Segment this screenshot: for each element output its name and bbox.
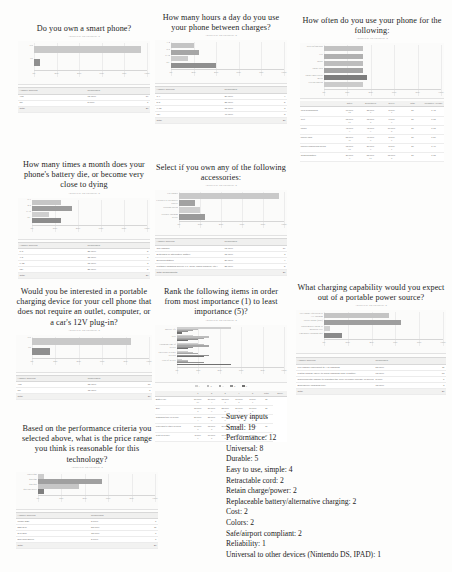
- legend-label: 2: [210, 385, 211, 388]
- bar-segment: [177, 356, 284, 357]
- survey-input-item: Retain charge/power: 2: [226, 486, 448, 497]
- panel-q6: Would you be interested in a portable ch…: [16, 287, 152, 400]
- matrix-cell-percent: 20: [403, 118, 422, 121]
- q2-tbody: Answer ChoicesResponses1-420.00%45-825.0…: [155, 87, 287, 123]
- matrix-cell-count: 6: [361, 148, 380, 151]
- x-axis: 0%20%40%60%80%100%: [38, 495, 155, 502]
- bar-row: [179, 193, 284, 199]
- q9-subtitle: Answered: 20 Skipped: 0: [16, 466, 158, 470]
- matrix-cell-count: 1: [382, 148, 401, 151]
- y-axis-label: No: [17, 347, 31, 350]
- y-axis-label: No: [19, 58, 33, 61]
- table-cell: Total: [16, 394, 86, 400]
- matrix-cell-percent: 1.15: [424, 118, 443, 121]
- matrix-cell: 20: [260, 396, 274, 405]
- x-tick-label: 100%: [146, 360, 152, 363]
- bar: [324, 46, 363, 51]
- matrix-cell: 45.00%9: [339, 125, 360, 134]
- q5-title: Select if you own any of the following a…: [155, 163, 287, 183]
- bar: [177, 332, 182, 333]
- legend-label: 4: [234, 385, 235, 388]
- matrix-cell: 20: [402, 125, 423, 134]
- y-axis-label: $40-$60: [17, 483, 37, 486]
- bar: [38, 484, 79, 489]
- matrix-cell-count: 2: [205, 437, 217, 440]
- bar: [324, 75, 367, 80]
- q6-title: Would you be interested in a portable ch…: [16, 287, 152, 328]
- legend-item[interactable]: 3: [219, 385, 224, 388]
- matrix-cell: 1.45: [423, 107, 444, 116]
- x-tick-label: 80%: [415, 91, 419, 94]
- x-tick-label: 40%: [76, 227, 80, 230]
- matrix-cell: 55.00%11: [360, 153, 381, 162]
- q8-table: Answer ChoicesResponsesFull charge equiv…: [296, 357, 446, 394]
- matrix-cell: 1.40: [423, 144, 444, 153]
- table-cell: Total: [16, 543, 90, 549]
- matrix-cell-count: 4: [192, 419, 204, 422]
- table-cell: Total Respondents: [155, 269, 223, 275]
- bar: [177, 340, 188, 341]
- matrix-cell-percent: 20: [403, 127, 422, 130]
- matrix-cell: 20.00%4: [191, 414, 205, 423]
- matrix-cell-count: 11: [340, 139, 359, 142]
- q1-table: Answer ChoicesResponsesYes95.00%19No5.00…: [18, 87, 150, 112]
- x-tick-label: 0%: [30, 360, 33, 363]
- panel-q3: How often do you use your phone for the …: [300, 16, 444, 162]
- legend-item[interactable]: 5: [242, 385, 247, 388]
- matrix-cell: 1.85: [423, 153, 444, 162]
- table-cell: Total: [18, 106, 86, 112]
- x-tick-label: 60%: [99, 227, 103, 230]
- x-tick-label: 40%: [77, 360, 81, 363]
- survey-inputs-heading: Survey inputs: [226, 412, 448, 423]
- x-tick-label: 40%: [214, 71, 218, 74]
- matrix-cell: 20: [402, 134, 423, 143]
- matrix-row: GPS/navigation30.00%655.00%1115.00%3201.…: [300, 153, 444, 162]
- survey-input-item: Reliability: 1: [226, 539, 448, 550]
- legend-item[interactable]: 2: [207, 385, 212, 388]
- legend-swatch: [207, 385, 210, 388]
- q5-chart: 0%20%40%60%80%100% Car chargerExtended o…: [155, 190, 287, 236]
- table-cell: [86, 394, 133, 400]
- x-tick-label: 60%: [393, 341, 397, 344]
- matrix-cell-percent: 20: [403, 136, 422, 139]
- legend-item[interactable]: 4: [230, 385, 235, 388]
- legend-swatch: [242, 385, 245, 388]
- y-axis-label: 12+: [156, 62, 170, 65]
- q7-subtitle: Answered: 20 Skipped: 0: [155, 319, 287, 323]
- table-total-row: Total20: [16, 543, 158, 549]
- matrix-row-header: Size: [155, 405, 191, 414]
- bar: [324, 54, 363, 59]
- bar: [38, 474, 44, 479]
- legend-item[interactable]: 1: [195, 385, 200, 388]
- y-axis-label: Music: [301, 60, 323, 63]
- matrix-cell: 15.00%3: [218, 396, 232, 405]
- x-axis: 0%20%40%60%80%100%: [34, 70, 147, 77]
- matrix-cell-count: 1: [382, 139, 401, 142]
- x-tick-label: 60%: [392, 91, 396, 94]
- x-tick-label: 20%: [59, 497, 63, 500]
- table-cell: [86, 273, 131, 279]
- x-tick-label: 60%: [239, 369, 243, 372]
- matrix-row-header: Cost of device: [155, 433, 191, 442]
- bar: [177, 348, 188, 349]
- x-tick-label: 20%: [198, 223, 202, 226]
- y-axis-label: Full charge equivalent to A/C charging: [297, 312, 323, 318]
- matrix-cell: 5.00%1: [246, 396, 260, 405]
- q4-table: Answer ChoicesResponses0-325.00%54-835.0…: [18, 242, 150, 279]
- survey-input-item: Cost: 2: [226, 507, 448, 518]
- matrix-cell-count: 2: [382, 130, 401, 133]
- matrix-cell: 0.00%0: [381, 116, 402, 125]
- panel-q8: What charging capability would you expec…: [296, 283, 446, 395]
- x-tick-label: 80%: [260, 369, 264, 372]
- bar: [34, 46, 141, 53]
- bar-row: [32, 348, 149, 355]
- matrix-cell-percent: 1.85: [424, 154, 443, 157]
- matrix-row: Phone/email/social media65.00%1330.00%65…: [300, 144, 444, 153]
- bar-row: [324, 313, 443, 318]
- bar-row: [38, 474, 155, 479]
- survey-input-item: Replaceable battery/alternative charging…: [226, 497, 448, 508]
- matrix-cell: 20: [402, 153, 423, 162]
- matrix-row-header: Phone/email/social media: [300, 144, 339, 153]
- x-tick-label: 80%: [261, 223, 265, 226]
- y-axis-label: Yes: [19, 45, 33, 48]
